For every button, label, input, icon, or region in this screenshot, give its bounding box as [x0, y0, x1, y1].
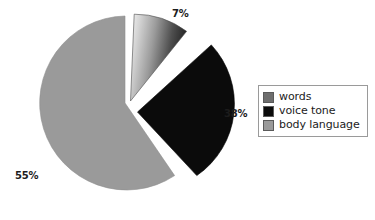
data-label-body-language: 55% — [15, 171, 38, 181]
pie-chart-figure: 7% 38% 55% words voice tone body languag… — [0, 0, 375, 220]
data-label-words: 7% — [172, 9, 189, 19]
legend-item-voice-tone: voice tone — [263, 104, 363, 118]
legend-label-body-language: body language — [279, 119, 360, 131]
legend-swatch-body-language-icon — [263, 120, 274, 131]
legend-item-words: words — [263, 90, 363, 104]
legend-swatch-voice-tone-icon — [263, 106, 274, 117]
legend-swatch-words-icon — [263, 92, 274, 103]
chart-legend: words voice tone body language — [258, 85, 368, 137]
legend-item-body-language: body language — [263, 118, 363, 132]
data-label-voice-tone: 38% — [224, 109, 247, 119]
legend-label-voice-tone: voice tone — [279, 105, 335, 117]
legend-label-words: words — [279, 91, 311, 103]
